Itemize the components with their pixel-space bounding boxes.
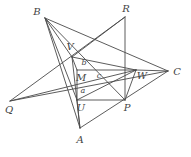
segment-V-W [72,57,136,70]
geometry-figure: BRVbMcWCaQUPA [0,0,191,157]
segments-group [10,17,168,128]
segment-W-C [136,70,168,71]
geometry-canvas [0,0,191,157]
segment-B-P [45,18,125,100]
segment-Q-W [10,70,136,101]
segment-U-W [77,70,136,100]
segment-R-V [72,17,125,57]
segment-B-A [45,18,80,128]
